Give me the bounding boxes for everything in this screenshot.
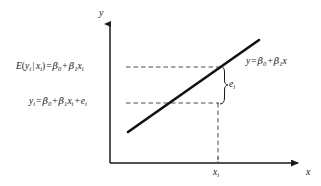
x-tick-label-sub: i [217, 171, 219, 178]
observed-plus-1: + [51, 96, 58, 106]
observed-response-sub: i [33, 100, 35, 107]
x-axis-label: x [306, 167, 310, 177]
expected-value-equals: = [45, 61, 52, 71]
y-axis-label-text: y [99, 7, 103, 18]
beta-slope-sub: 1 [74, 65, 77, 72]
observed-beta-slope-sub: 1 [64, 100, 67, 107]
observed-beta-intercept-sub: 0 [48, 100, 51, 107]
y-axis-label: y [99, 8, 103, 18]
diagram-canvas [0, 0, 321, 186]
regression-line-equation-label: y=β0+β1x [246, 56, 287, 67]
error-brace [220, 66, 228, 104]
line-eq-beta-intercept-sub: 0 [263, 60, 266, 67]
regression-line [128, 40, 259, 132]
error-term-label: ei [229, 80, 235, 90]
observed-value-label: yi=β0+β1xi+ei [29, 96, 87, 107]
regression-diagram: E(yi|xi)=β0+β1xi yi=β0+β1xi+ei y=β0+β1x … [0, 0, 321, 186]
x-tick-label: xi [213, 168, 219, 178]
expected-value-plus: + [61, 61, 68, 71]
observed-plus-2: + [73, 96, 80, 106]
observed-slope-var: x [67, 96, 71, 106]
expected-value-cond-sub: i [40, 65, 42, 72]
x-axis-label-text: x [306, 166, 310, 177]
expected-value-label: E(yi|xi)=β0+β1xi [16, 61, 84, 72]
line-eq-plus: + [266, 56, 273, 66]
expected-value-response-sub: i [29, 65, 31, 72]
line-eq-slope-var: x [283, 56, 287, 66]
error-term-sub: i [233, 83, 235, 90]
line-eq-beta-slope-sub: 1 [279, 60, 282, 67]
beta-intercept-sub: 0 [58, 65, 61, 72]
line-eq-equals: = [250, 56, 257, 66]
expected-value-slope-var-sub: i [82, 65, 84, 72]
observed-error-sub: i [85, 100, 87, 107]
